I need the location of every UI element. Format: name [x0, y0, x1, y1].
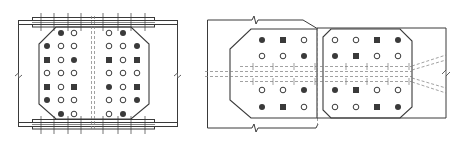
- gusset-bolt-group: [44, 30, 140, 117]
- bolt-filled-icon: [332, 53, 338, 59]
- bolt-filled-icon: [44, 43, 50, 49]
- break-mark-icon: [15, 73, 22, 78]
- bolt-hole-icon: [71, 111, 77, 117]
- bolt-filled-icon: [332, 87, 338, 93]
- break-mark-icon: [442, 70, 450, 76]
- bracing-hidden-lines: [205, 55, 446, 93]
- bolt-filled-icon: [120, 30, 126, 36]
- bolt-hole-icon: [71, 43, 77, 49]
- bolt-hole-icon: [395, 87, 401, 93]
- bolt-hole-icon: [332, 37, 338, 43]
- bolt-square-icon: [280, 37, 286, 43]
- beam-outline: [317, 28, 446, 70]
- bolt-hole-icon: [58, 43, 64, 49]
- bolt-hole-icon: [106, 30, 112, 36]
- bolt-filled-icon: [44, 97, 50, 103]
- bolt-square-icon: [353, 87, 359, 93]
- bolt-filled-icon: [134, 43, 140, 49]
- bolt-filled-icon: [71, 57, 77, 63]
- bolt-square-icon: [280, 104, 286, 110]
- bolt-hole-icon: [353, 104, 359, 110]
- bolt-square-icon: [374, 37, 380, 43]
- member-outline-top: [252, 16, 318, 29]
- bolt-filled-icon: [58, 111, 64, 117]
- bolt-square-icon: [353, 53, 359, 59]
- bolt-hole-icon: [58, 97, 64, 103]
- bolt-filled-icon: [58, 30, 64, 36]
- bolt-hole-icon: [71, 70, 77, 76]
- left-flange-splice-detail: [15, 13, 181, 134]
- bolt-hole-icon: [374, 87, 380, 93]
- bolt-filled-icon: [259, 104, 265, 110]
- bolt-hole-icon: [44, 70, 50, 76]
- connection-details-figure: [0, 0, 463, 145]
- flange-bolt-lines: [41, 13, 145, 134]
- bolt-hole-icon: [353, 37, 359, 43]
- bolt-hole-icon: [301, 37, 307, 43]
- bolt-square-icon: [134, 57, 140, 63]
- bolt-filled-icon: [259, 37, 265, 43]
- bolt-square-icon: [44, 57, 50, 63]
- right-bracing-splice-detail: [205, 16, 450, 132]
- bolt-hole-icon: [71, 30, 77, 36]
- diagram-canvas: [0, 0, 463, 145]
- bolt-hole-icon: [259, 53, 265, 59]
- top-flange: [18, 18, 178, 28]
- break-mark-icon: [174, 73, 181, 78]
- bolt-hole-icon: [106, 43, 112, 49]
- bolt-hole-icon: [58, 70, 64, 76]
- bolt-hole-icon: [120, 70, 126, 76]
- bolt-filled-icon: [120, 111, 126, 117]
- bolt-square-icon: [106, 57, 112, 63]
- member-outline-bottom: [252, 124, 318, 132]
- bolt-hole-icon: [71, 97, 77, 103]
- bolt-hole-icon: [395, 53, 401, 59]
- bolt-hole-icon: [120, 43, 126, 49]
- bolt-filled-icon: [395, 104, 401, 110]
- bolt-square-icon: [134, 84, 140, 90]
- bolt-hole-icon: [106, 70, 112, 76]
- bolt-hole-icon: [106, 111, 112, 117]
- bolt-hole-icon: [259, 87, 265, 93]
- bolt-hole-icon: [106, 97, 112, 103]
- bolt-square-icon: [44, 84, 50, 90]
- bolt-filled-icon: [134, 97, 140, 103]
- bolt-hole-icon: [134, 70, 140, 76]
- bolt-square-icon: [71, 84, 77, 90]
- bolt-filled-icon: [301, 87, 307, 93]
- bolt-filled-icon: [395, 37, 401, 43]
- gusset-plate: [39, 27, 149, 119]
- bolt-hole-icon: [120, 84, 126, 90]
- bolt-filled-icon: [301, 53, 307, 59]
- bolt-hole-icon: [374, 53, 380, 59]
- bolt-hole-icon: [58, 57, 64, 63]
- bolt-hole-icon: [120, 97, 126, 103]
- gusset-bolt-group: [259, 37, 401, 110]
- bolt-hole-icon: [332, 104, 338, 110]
- bolt-square-icon: [374, 104, 380, 110]
- bottom-flange: [18, 120, 178, 130]
- bolt-hole-icon: [120, 57, 126, 63]
- bolt-filled-icon: [106, 84, 112, 90]
- bolt-hole-icon: [58, 84, 64, 90]
- bolt-hole-icon: [280, 87, 286, 93]
- bolt-hole-icon: [301, 104, 307, 110]
- bolt-hole-icon: [280, 53, 286, 59]
